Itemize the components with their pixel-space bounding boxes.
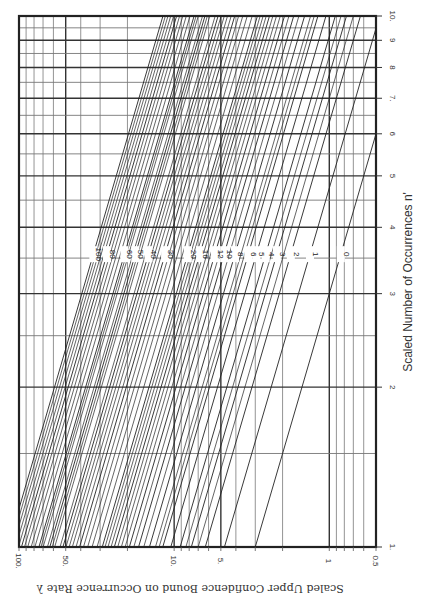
y-tick-label: 7.: [388, 95, 397, 102]
y-tick-label: 1.: [388, 544, 397, 551]
x-tick-label: 100.: [14, 553, 23, 569]
bound-curve: [72, 16, 227, 547]
bound-curve: [180, 16, 335, 547]
bound-curve: [155, 16, 310, 547]
curve-label: 30: [166, 250, 175, 259]
curve-label: 20: [189, 250, 198, 259]
curve-label: 10: [225, 250, 234, 259]
confidence-bound-chart: 01234568101216203040506080100 100.50.10.…: [0, 0, 427, 606]
curve-label: 0: [342, 252, 351, 257]
curve-label: 8: [236, 252, 245, 257]
bound-curve: [139, 16, 294, 547]
curve-label: 6: [249, 252, 258, 257]
bound-curve: [19, 16, 163, 509]
x-tick-label: 50.: [61, 555, 70, 566]
curve-label: 16: [201, 250, 210, 259]
curve-label: 60: [125, 250, 134, 259]
bound-curve: [19, 16, 171, 535]
bound-curve: [83, 16, 238, 547]
y-tick-label: 5: [388, 174, 397, 179]
curve-label: 50: [136, 250, 145, 259]
bound-curve: [125, 16, 280, 547]
y-tick-label: 3: [388, 291, 397, 296]
x-tick-label: 1: [324, 559, 333, 564]
bound-curve: [47, 16, 202, 547]
x-axis-ticks: 100.50.10.5.10.5: [14, 547, 380, 569]
x-tick-label: 0.5: [371, 555, 380, 567]
bound-curve: [92, 16, 247, 547]
bound-curve: [19, 16, 165, 517]
y-tick-label: 10.: [388, 10, 397, 21]
y-axis-ticks: 1.234567.8910.: [376, 10, 397, 550]
bound-curve: [108, 16, 263, 547]
y-tick-label: 8: [388, 65, 397, 70]
curve-label: 2: [292, 252, 301, 257]
bound-curve: [118, 16, 273, 547]
bound-curve: [129, 16, 284, 547]
y-axis-title: Scaled Number of Occurrences n': [401, 192, 415, 372]
curve-label: 4: [267, 252, 276, 257]
bound-curve: [39, 16, 194, 547]
bound-curve: [55, 16, 210, 547]
curve-label: 3: [278, 252, 287, 257]
x-axis-title: Scaled Upper Confidence Bound on Occurre…: [36, 582, 344, 595]
curve-label: 80: [108, 250, 117, 259]
curve-label: 12: [216, 250, 225, 259]
bound-curve: [31, 16, 186, 547]
bound-curve: [19, 16, 168, 526]
bound-curve: [186, 16, 341, 547]
bound-curve: [191, 16, 346, 547]
bound-curve: [163, 16, 318, 547]
bound-curve: [52, 16, 207, 547]
bound-curve: [69, 16, 224, 547]
curve-label: 40: [149, 250, 158, 259]
bound-curve: [102, 16, 257, 547]
y-tick-label: 9: [388, 38, 397, 43]
y-tick-label: 6: [388, 132, 397, 137]
y-tick-label: 2: [388, 385, 397, 390]
bound-curves: [19, 16, 376, 547]
bound-curve: [28, 16, 183, 547]
bound-curve: [24, 16, 179, 547]
curve-label: 1: [311, 252, 320, 257]
x-tick-label: 5.: [216, 558, 225, 565]
bound-curve: [111, 16, 266, 547]
bound-curve: [88, 16, 243, 547]
x-tick-label: 10.: [169, 555, 178, 566]
bound-curve: [63, 16, 218, 547]
curve-labels: 01234568101216203040506080100: [89, 246, 350, 262]
y-tick-label: 4: [388, 225, 397, 230]
curve-label: 100: [94, 248, 103, 262]
bound-curve: [171, 16, 326, 547]
